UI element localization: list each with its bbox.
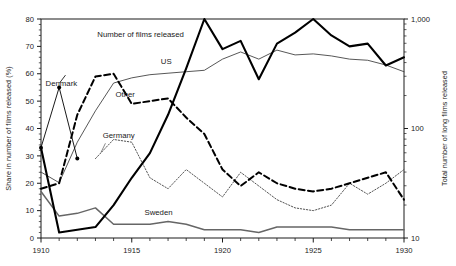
chart-container: 01020304050607080101001,0001910191519201…: [0, 0, 456, 266]
y-axis-tick-label: 0: [30, 234, 34, 243]
y2-axis-tick-label: 10: [411, 234, 419, 243]
series-label-number-of-films-released: Number of films released: [97, 30, 184, 39]
x-axis-tick-label: 1920: [214, 246, 231, 255]
y-axis-tick-label: 60: [26, 69, 34, 78]
series-label-us: US: [161, 57, 172, 66]
y-axis-tick-label: 70: [26, 42, 34, 51]
y-axis-title: Share in number of films released (%): [4, 66, 13, 190]
y-axis-tick-label: 50: [26, 97, 34, 106]
y-axis-tick-label: 10: [26, 206, 34, 215]
x-axis-tick-label: 1925: [305, 246, 322, 255]
y-axis-tick-label: 40: [26, 124, 34, 133]
film-share-line-chart: 01020304050607080101001,0001910191519201…: [0, 0, 456, 266]
y2-axis-tick-label: 100: [411, 124, 424, 133]
x-axis-tick-label: 1930: [396, 246, 413, 255]
x-axis-tick-label: 1910: [33, 246, 50, 255]
series-label-sweden: Sweden: [144, 208, 172, 217]
y2-axis-tick-label: 1,000: [411, 15, 430, 24]
series-label-germany: Germany: [103, 131, 135, 140]
series-marker-denmark: [75, 157, 79, 161]
x-axis-tick-label: 1915: [123, 246, 140, 255]
y-axis-tick-label: 80: [26, 15, 34, 24]
y-axis-tick-label: 20: [26, 179, 34, 188]
plot-area-frame: [41, 19, 404, 238]
y-axis-tick-label: 30: [26, 152, 34, 161]
y2-axis-title: Total number of long films released: [440, 71, 449, 186]
series-label-other: Other: [115, 90, 135, 99]
